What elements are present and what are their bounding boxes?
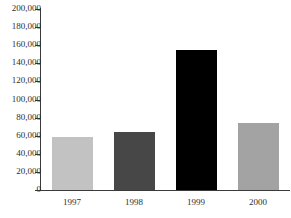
x-tick-label-1998: 1998 [104, 197, 164, 207]
y-tick-label: 100,000 [8, 95, 41, 104]
bar-chart: · · · 020,00040,00060,00080,000100,00012… [0, 0, 291, 218]
y-tick-label: 40,000 [8, 149, 41, 158]
bar-1997[interactable] [52, 137, 93, 190]
y-tick-label: 140,000 [8, 58, 41, 67]
x-tick-label-2000: 2000 [228, 197, 288, 207]
x-tick-label-1997: 1997 [42, 197, 102, 207]
x-tick-label-1999: 1999 [166, 197, 226, 207]
y-tick-label: 180,000 [8, 22, 41, 31]
y-tick-label: 200,000 [8, 4, 41, 13]
y-tick-label: 60,000 [8, 131, 41, 140]
y-tick-label: 80,000 [8, 113, 41, 122]
y-tick-label: 20,000 [8, 167, 41, 176]
bar-1999[interactable] [176, 50, 217, 190]
y-tick-label: 160,000 [8, 40, 41, 49]
chart-title-remnant: · · · [108, 0, 178, 3]
y-axis-ticks: 020,00040,00060,00080,000100,000120,0001… [0, 0, 41, 218]
y-tick-label: 0 [8, 185, 41, 194]
x-axis-line [41, 190, 290, 191]
plot-area [41, 9, 289, 190]
bar-2000[interactable] [238, 123, 279, 190]
bar-1998[interactable] [114, 132, 155, 190]
y-tick-label: 120,000 [8, 76, 41, 85]
